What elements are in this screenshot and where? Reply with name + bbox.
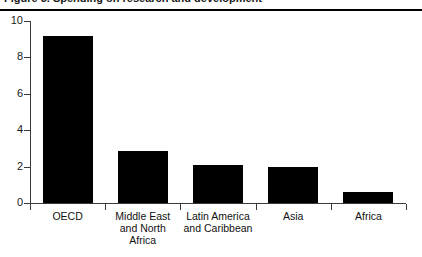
y-axis-tick-label: 2 — [17, 161, 23, 172]
top-divider-rule — [0, 9, 422, 11]
x-axis-category-label-line: and North — [105, 222, 180, 234]
figure-container: Figure 3. Spending on research and devel… — [0, 0, 422, 257]
plot-area — [30, 21, 406, 203]
x-axis-category-label: Asia — [256, 210, 331, 222]
y-axis-tick-label: 10 — [11, 15, 23, 26]
bar — [118, 151, 168, 203]
x-axis-line — [24, 203, 406, 204]
x-axis-category-label: OECD — [30, 210, 105, 222]
x-axis-category-label: Africa — [331, 210, 406, 222]
x-axis-category-label: Latin Americaand Caribbean — [180, 210, 255, 234]
x-axis-category-label: Middle Eastand NorthAfrica — [105, 210, 180, 246]
x-axis-category-label-line: and Caribbean — [180, 222, 255, 234]
bar — [268, 167, 318, 203]
bar — [43, 36, 93, 203]
bar — [193, 165, 243, 203]
y-axis-tick-label: 8 — [17, 51, 23, 62]
x-axis-category-label-line: Africa — [331, 210, 406, 222]
y-axis-tick-label: 6 — [17, 88, 23, 99]
x-axis-category-label-line: Latin America — [180, 210, 255, 222]
bar — [343, 192, 393, 203]
x-axis-category-label-line: Asia — [256, 210, 331, 222]
y-axis-tick-label: 4 — [17, 124, 23, 135]
figure-caption-clipped: Figure 3. Spending on research and devel… — [0, 0, 422, 9]
x-axis-category-label-line: OECD — [30, 210, 105, 222]
x-axis-category-label-line: Middle East — [105, 210, 180, 222]
x-axis-tick — [406, 204, 407, 210]
figure-caption-text: Figure 3. Spending on research and devel… — [4, 0, 262, 4]
x-axis-category-label-line: Africa — [105, 234, 180, 246]
y-axis-tick-label: 0 — [17, 197, 23, 208]
